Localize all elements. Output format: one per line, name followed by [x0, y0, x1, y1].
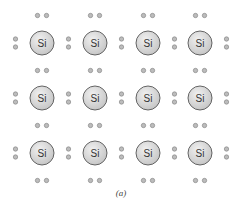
electron-dot — [202, 68, 206, 72]
electron-dot — [13, 100, 17, 104]
electron-dot — [97, 123, 101, 127]
atom-label: Si — [38, 93, 47, 104]
silicon-atom: Si — [83, 31, 107, 55]
silicon-atom: Si — [30, 141, 54, 165]
silicon-atom: Si — [136, 31, 160, 55]
electron-dot — [97, 13, 101, 17]
electron-dot — [224, 92, 228, 96]
atom-label: Si — [91, 93, 100, 104]
electron-dot — [119, 155, 123, 159]
electron-dot — [66, 92, 70, 96]
electron-dot — [88, 123, 92, 127]
electron-dot — [44, 178, 48, 182]
electron-dot — [172, 155, 176, 159]
electron-dot — [66, 37, 70, 41]
atom-label: Si — [91, 38, 100, 49]
electron-dot — [119, 45, 123, 49]
atom-label: Si — [196, 93, 205, 104]
electron-dot — [150, 178, 154, 182]
electron-dot — [35, 178, 39, 182]
electron-dot — [141, 13, 145, 17]
atom-label: Si — [196, 38, 205, 49]
electron-dot — [35, 13, 39, 17]
electron-dot — [172, 37, 176, 41]
atom-label: Si — [38, 38, 47, 49]
electron-dot — [202, 123, 206, 127]
electron-dot — [141, 178, 145, 182]
electron-dot — [97, 178, 101, 182]
electron-dot — [224, 45, 228, 49]
electron-dot — [119, 92, 123, 96]
electron-dot — [224, 155, 228, 159]
electron-dot — [13, 37, 17, 41]
electron-dot — [13, 147, 17, 151]
electron-dot — [172, 147, 176, 151]
electron-dot — [13, 45, 17, 49]
electron-dot — [141, 123, 145, 127]
electron-dot — [66, 100, 70, 104]
electron-dot — [193, 68, 197, 72]
atom-label: Si — [196, 148, 205, 159]
silicon-atom: Si — [83, 141, 107, 165]
atom-label: Si — [91, 148, 100, 159]
silicon-atom: Si — [188, 86, 212, 110]
electron-dot — [119, 100, 123, 104]
electron-dot — [44, 123, 48, 127]
electron-dot — [66, 155, 70, 159]
atom-label: Si — [38, 148, 47, 159]
electron-dot — [35, 123, 39, 127]
electron-dot — [193, 13, 197, 17]
electron-dot — [202, 13, 206, 17]
silicon-atom: Si — [136, 86, 160, 110]
atom-label: Si — [144, 148, 153, 159]
electron-dot — [66, 45, 70, 49]
electron-dot — [193, 178, 197, 182]
silicon-atoms: SiSiSiSiSiSiSiSiSiSiSiSi — [30, 31, 212, 165]
atom-label: Si — [144, 38, 153, 49]
atom-label: Si — [144, 93, 153, 104]
electron-dot — [88, 13, 92, 17]
electron-dot — [119, 147, 123, 151]
electron-dot — [97, 68, 101, 72]
electron-dot — [172, 92, 176, 96]
silicon-atom: Si — [188, 141, 212, 165]
electron-dot — [172, 100, 176, 104]
electron-dot — [141, 68, 145, 72]
electron-dot — [150, 123, 154, 127]
figure-caption: (a) — [0, 188, 242, 198]
silicon-atom: Si — [30, 31, 54, 55]
electron-dot — [150, 68, 154, 72]
electron-dot — [88, 68, 92, 72]
electron-dot — [13, 155, 17, 159]
electron-dot — [66, 147, 70, 151]
electron-dot — [224, 37, 228, 41]
electron-dot — [35, 68, 39, 72]
electron-dot — [44, 13, 48, 17]
electron-dot — [150, 13, 154, 17]
electron-dot — [88, 178, 92, 182]
electron-dot — [13, 92, 17, 96]
silicon-atom: Si — [188, 31, 212, 55]
electron-dot — [193, 123, 197, 127]
silicon-lattice-diagram: SiSiSiSiSiSiSiSiSiSiSiSi — [0, 0, 242, 208]
electron-dot — [224, 100, 228, 104]
silicon-atom: Si — [83, 86, 107, 110]
silicon-atom: Si — [136, 141, 160, 165]
electron-dot — [119, 37, 123, 41]
electron-dot — [172, 45, 176, 49]
silicon-atom: Si — [30, 86, 54, 110]
electron-dot — [224, 147, 228, 151]
electron-dot — [202, 178, 206, 182]
electron-dot — [44, 68, 48, 72]
